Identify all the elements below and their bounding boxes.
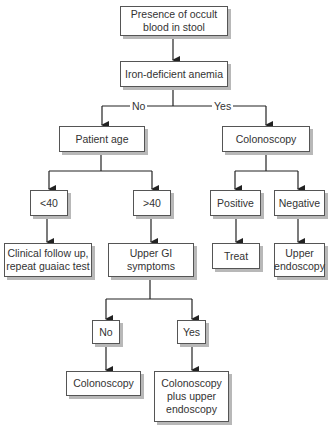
node-iron-deficient-anemia: Iron-deficient anemia bbox=[120, 61, 228, 87]
node-occult-blood: Presence of occult blood in stool bbox=[120, 6, 228, 36]
node-yes: Yes bbox=[177, 320, 206, 344]
node-treat: Treat bbox=[212, 243, 260, 269]
node-positive: Positive bbox=[210, 190, 261, 216]
node-under-40: <40 bbox=[30, 190, 68, 216]
node-upper-gi-symptoms: Upper GI symptoms bbox=[108, 243, 194, 277]
node-over-40: >40 bbox=[133, 190, 171, 216]
edge-label-yes: Yes bbox=[212, 100, 233, 112]
node-clinical-follow-up: Clinical follow up, repeat guaiac test bbox=[4, 243, 92, 277]
node-colonoscopy-plus-upper-endoscopy: Colonoscopy plus upper endoscopy bbox=[154, 371, 229, 422]
node-colonoscopy-right: Colonoscopy bbox=[222, 126, 310, 152]
node-colonoscopy-bottom: Colonoscopy bbox=[66, 371, 141, 396]
node-no: No bbox=[92, 320, 120, 344]
node-negative: Negative bbox=[274, 190, 325, 216]
edge-label-no: No bbox=[130, 100, 147, 112]
node-upper-endoscopy: Upper endoscopy bbox=[274, 243, 325, 277]
node-patient-age: Patient age bbox=[59, 126, 145, 152]
